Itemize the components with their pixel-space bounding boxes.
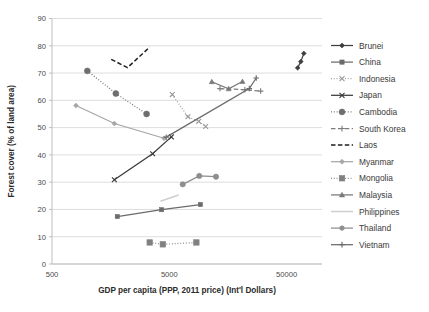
legend-item-indonesia[interactable]: Indonesia bbox=[331, 74, 396, 84]
y-tick-label: 70 bbox=[38, 69, 46, 78]
series-line bbox=[172, 95, 205, 127]
y-tick-label: 0 bbox=[42, 260, 46, 269]
series-thailand bbox=[180, 173, 219, 187]
y-tick-labels: 0102030405060708090 bbox=[38, 14, 52, 268]
y-tick-label: 60 bbox=[38, 96, 46, 105]
y-tick-label: 10 bbox=[38, 233, 46, 242]
legend-label: South Korea bbox=[359, 124, 406, 134]
data-point-marker bbox=[150, 151, 155, 156]
legend-item-thailand[interactable]: Thailand bbox=[331, 223, 391, 233]
data-point-marker bbox=[112, 177, 117, 182]
legend-item-vietnam[interactable]: Vietnam bbox=[331, 240, 390, 250]
series-myanmar bbox=[74, 103, 167, 141]
legend-label: Indonesia bbox=[359, 74, 396, 84]
legend-label: Laos bbox=[359, 140, 377, 150]
forest-cover-vs-gdp-chart: 0102030405060708090500500050000GDP per c… bbox=[0, 0, 429, 312]
data-point-marker bbox=[258, 88, 264, 94]
legend-item-south-korea[interactable]: South Korea bbox=[331, 124, 406, 134]
legend-label: Thailand bbox=[359, 223, 391, 233]
data-point-marker bbox=[339, 176, 344, 181]
data-point-marker bbox=[203, 124, 208, 129]
data-point-marker bbox=[194, 240, 199, 245]
legend-label: Japan bbox=[359, 90, 382, 100]
data-point-marker bbox=[74, 103, 79, 108]
legend-label: Cambodia bbox=[359, 107, 398, 117]
data-point-marker bbox=[160, 208, 164, 212]
data-point-marker bbox=[213, 174, 218, 179]
data-point-marker bbox=[144, 111, 150, 117]
x-tick-label: 50000 bbox=[276, 270, 297, 279]
series-line bbox=[76, 106, 164, 139]
legend-item-laos[interactable]: Laos bbox=[331, 140, 377, 150]
y-tick-label: 90 bbox=[38, 14, 46, 23]
data-point-marker bbox=[340, 226, 345, 231]
series-philippines bbox=[160, 195, 178, 201]
y-tick-label: 50 bbox=[38, 123, 46, 132]
y-tick-label: 30 bbox=[38, 178, 46, 187]
data-point-marker bbox=[115, 214, 119, 218]
data-point-marker bbox=[84, 68, 90, 74]
data-point-marker bbox=[340, 159, 345, 164]
legend-label: China bbox=[359, 57, 381, 67]
data-point-marker bbox=[209, 79, 214, 83]
data-point-marker bbox=[160, 242, 165, 247]
data-point-marker bbox=[170, 92, 175, 97]
legend-item-cambodia[interactable]: Cambodia bbox=[331, 107, 398, 117]
data-point-marker bbox=[240, 79, 245, 83]
series-line bbox=[111, 47, 149, 67]
series-line bbox=[212, 82, 243, 89]
series-laos bbox=[111, 47, 149, 67]
data-point-marker bbox=[180, 182, 185, 187]
series-china bbox=[115, 202, 202, 218]
y-axis-title: Forest cover (% of land area) bbox=[7, 85, 16, 198]
x-axis-title: GDP per capita (PPP, 2011 price) (Int'l … bbox=[98, 286, 276, 295]
legend-item-philippines[interactable]: Philippines bbox=[331, 207, 400, 217]
series-line bbox=[117, 205, 200, 217]
data-point-marker bbox=[339, 109, 345, 115]
legend-item-japan[interactable]: Japan bbox=[331, 90, 382, 100]
x-tick-label: 500 bbox=[46, 270, 59, 279]
x-tick-labels: 500500050000 bbox=[46, 270, 298, 279]
legend-label: Myanmar bbox=[359, 157, 394, 167]
legend: BruneiChinaIndonesiaJapanCambodiaSouth K… bbox=[331, 41, 406, 250]
series-malaysia bbox=[209, 79, 245, 91]
legend-label: Philippines bbox=[359, 207, 400, 217]
data-point-marker bbox=[198, 202, 202, 206]
series-japan bbox=[112, 134, 174, 182]
series-line bbox=[160, 195, 178, 201]
series-brunei bbox=[295, 51, 306, 70]
legend-label: Brunei bbox=[359, 41, 383, 51]
legend-label: Vietnam bbox=[359, 240, 390, 250]
data-point-marker bbox=[113, 91, 119, 97]
legend-item-myanmar[interactable]: Myanmar bbox=[331, 157, 394, 167]
series-group bbox=[74, 47, 307, 247]
y-tick-label: 20 bbox=[38, 205, 46, 214]
data-point-marker bbox=[112, 121, 117, 126]
series-cambodia bbox=[84, 68, 149, 117]
series-line bbox=[114, 137, 171, 180]
series-mongolia bbox=[147, 240, 199, 247]
legend-item-brunei[interactable]: Brunei bbox=[331, 41, 383, 51]
legend-item-china[interactable]: China bbox=[331, 57, 381, 67]
data-point-marker bbox=[197, 173, 202, 178]
chart-canvas: 0102030405060708090500500050000GDP per c… bbox=[0, 0, 429, 312]
series-line bbox=[150, 242, 197, 244]
series-vietnam bbox=[163, 75, 259, 140]
data-point-marker bbox=[339, 242, 345, 248]
legend-item-mongolia[interactable]: Mongolia bbox=[331, 173, 393, 183]
data-point-marker bbox=[298, 59, 303, 64]
data-point-marker bbox=[339, 126, 345, 132]
data-point-marker bbox=[186, 114, 191, 119]
y-tick-label: 80 bbox=[38, 42, 46, 51]
data-point-marker bbox=[301, 51, 306, 56]
x-tick-label: 5000 bbox=[161, 270, 178, 279]
data-point-marker bbox=[295, 65, 300, 70]
series-line bbox=[166, 78, 256, 137]
data-point-marker bbox=[147, 240, 152, 245]
gridlines bbox=[52, 19, 322, 265]
data-point-marker bbox=[340, 43, 345, 48]
legend-label: Malaysia bbox=[359, 190, 392, 200]
legend-label: Mongolia bbox=[359, 173, 393, 183]
data-point-marker bbox=[340, 60, 344, 64]
legend-item-malaysia[interactable]: Malaysia bbox=[331, 190, 392, 200]
